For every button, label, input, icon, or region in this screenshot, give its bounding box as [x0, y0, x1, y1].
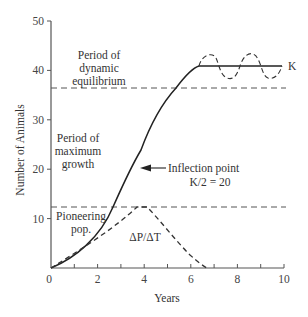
max-growth-label-line2: maximum: [55, 145, 102, 157]
k-label: K: [288, 60, 297, 72]
x-tick-10: 10: [278, 273, 290, 285]
inflection-label-line1: Inflection point: [168, 162, 240, 175]
max-growth-label-line1: Period of: [57, 132, 100, 144]
x-axis-label: Years: [154, 292, 180, 304]
inflection-arrow-head-icon: [140, 165, 151, 172]
x-tick-4: 4: [141, 273, 147, 285]
y-tick-30: 30: [33, 114, 45, 126]
x-tick-0: 0: [46, 273, 52, 285]
x-tick-8: 8: [235, 273, 241, 285]
x-tick-2: 2: [95, 273, 101, 285]
y-axis-label: Number of Animals: [14, 104, 26, 196]
inflection-label-line2: K/2 = 20: [190, 176, 231, 188]
max-growth-label-line3: growth: [62, 158, 95, 171]
y-tick-50: 50: [33, 15, 45, 27]
dynamic-label-line2: dynamic: [79, 62, 119, 75]
y-tick-20: 20: [33, 163, 45, 175]
pioneer-label-line1: Pioneering: [56, 210, 106, 223]
growth-rate-label: ΔP/ΔT: [129, 231, 160, 243]
dynamic-label-line3: equilibrium: [72, 75, 126, 88]
pioneer-label-line2: pop.: [71, 223, 91, 236]
x-tick-6: 6: [188, 273, 194, 285]
logistic-growth-chart: 50 40 30 20 10 0 2 4 6 8 10 Years Number…: [0, 0, 308, 317]
dynamic-label-line1: Period of: [78, 49, 121, 61]
y-tick-10: 10: [33, 213, 45, 225]
y-tick-40: 40: [33, 64, 45, 76]
